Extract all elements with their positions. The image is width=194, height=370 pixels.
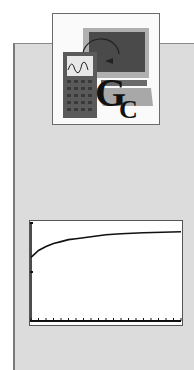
line-chart [30, 221, 182, 325]
calculator-graph [29, 220, 183, 326]
gc-logo: G C [52, 13, 160, 125]
logo-icon: G C [53, 14, 159, 124]
series-line [31, 232, 181, 257]
logo-letter-c: C [119, 95, 138, 124]
